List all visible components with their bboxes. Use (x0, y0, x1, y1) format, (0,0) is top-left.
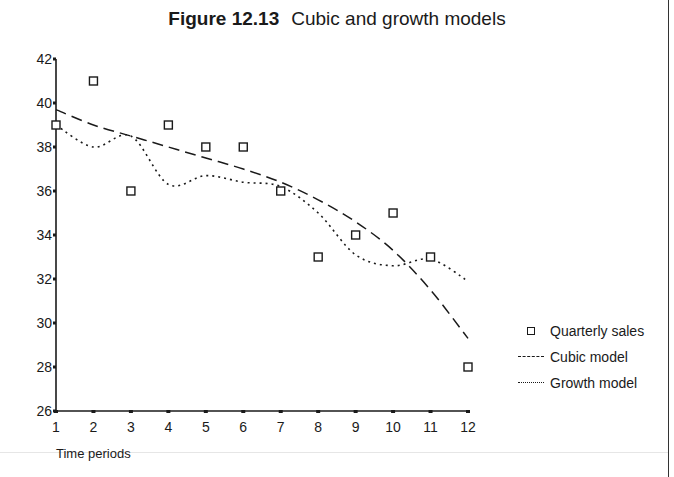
x-tick-label: 10 (385, 419, 401, 435)
x-tick-label: 12 (460, 419, 476, 435)
data-point-marker (239, 143, 247, 151)
dashed-line-icon (508, 350, 544, 364)
data-point-marker (277, 187, 285, 195)
y-tick-label: 34 (36, 227, 52, 243)
y-tick-label: 32 (36, 271, 52, 287)
y-tick-label: 28 (36, 359, 52, 375)
x-tick-label: 1 (52, 419, 60, 435)
x-tick-label: 2 (90, 419, 98, 435)
legend-item-cubic-model: Cubic model (508, 344, 644, 370)
x-tick-label: 8 (314, 419, 322, 435)
cubic-model-line (56, 110, 468, 339)
data-point-marker (127, 187, 135, 195)
legend-label: Quarterly sales (550, 323, 644, 339)
x-axis-label: Time periods (56, 446, 131, 461)
data-point-marker (427, 253, 435, 261)
data-point-marker (52, 121, 60, 129)
legend-item-growth-model: Growth model (508, 370, 644, 396)
y-tick-label: 26 (36, 403, 52, 419)
x-tick-label: 11 (423, 419, 438, 435)
axes (53, 58, 470, 414)
x-tick-label: 9 (352, 419, 360, 435)
y-tick-label: 42 (36, 51, 52, 67)
growth-model-line (56, 125, 468, 281)
quarterly-sales-markers (52, 77, 472, 371)
x-tick-label: 7 (277, 419, 285, 435)
y-tick-label: 40 (36, 95, 52, 111)
dotted-line-icon (508, 376, 544, 390)
data-point-marker (202, 143, 210, 151)
x-tick-label: 5 (202, 419, 210, 435)
x-tick-label: 3 (127, 419, 135, 435)
page-border-right (668, 0, 669, 477)
data-point-marker (352, 231, 360, 239)
data-point-marker (89, 77, 97, 85)
y-tick-label: 38 (36, 139, 52, 155)
x-tick-labels: 123456789101112 (52, 419, 476, 435)
legend-item-quarterly-sales: Quarterly sales (508, 318, 644, 344)
data-point-marker (389, 209, 397, 217)
data-point-marker (164, 121, 172, 129)
plot-area: 262830323436384042 123456789101112 (0, 0, 674, 477)
y-tick-label: 30 (36, 315, 52, 331)
x-tick-label: 4 (164, 419, 172, 435)
y-tick-labels: 262830323436384042 (36, 51, 52, 419)
legend-label: Cubic model (550, 349, 628, 365)
legend: Quarterly sales Cubic model Growth model (508, 318, 644, 396)
x-tick-label: 6 (239, 419, 247, 435)
square-marker-icon (508, 324, 544, 338)
data-point-marker (464, 363, 472, 371)
y-tick-label: 36 (36, 183, 52, 199)
legend-label: Growth model (550, 375, 637, 391)
data-point-marker (314, 253, 322, 261)
